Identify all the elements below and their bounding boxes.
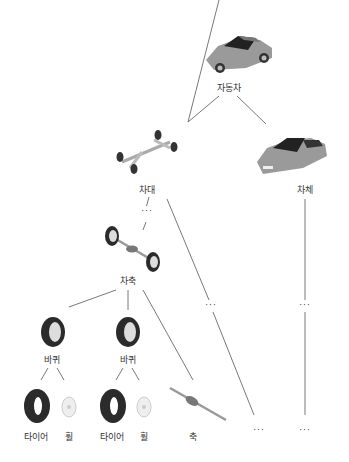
chassis-label: 차대 — [139, 183, 155, 196]
chassis-ellipsis: ··· — [140, 206, 154, 216]
wheel-node-1 — [40, 316, 66, 348]
tire-icon — [23, 388, 51, 424]
car-label: 자동차 — [217, 81, 241, 94]
body-label: 차체 — [297, 183, 313, 196]
wheel-node-2 — [115, 316, 141, 348]
rim-label-2: 휠 — [140, 430, 148, 443]
car-node — [198, 18, 278, 78]
rim-node-1 — [61, 396, 77, 418]
tire-node-1 — [23, 388, 51, 424]
body-branch-ellipsis: ··· — [298, 300, 312, 310]
tire-label-2: 타이어 — [100, 430, 124, 443]
rim-label-1: 휠 — [65, 430, 73, 443]
tire-label-1: 타이어 — [24, 430, 48, 443]
rim-icon — [136, 396, 152, 418]
shaft-node — [168, 384, 228, 424]
body-node — [255, 126, 330, 181]
axle-node — [102, 224, 164, 274]
chassis-icon — [112, 130, 182, 175]
bottom-ellipsis-2: ··· — [298, 425, 312, 435]
car-body-icon — [255, 126, 330, 181]
wheel-label-2: 바퀴 — [120, 353, 136, 366]
axle-icon — [102, 224, 164, 274]
shaft-label: 축 — [189, 430, 197, 443]
chassis-node — [112, 130, 182, 175]
tire-icon — [99, 388, 127, 424]
wheel-label-1: 바퀴 — [44, 353, 60, 366]
rim-icon — [61, 396, 77, 418]
axle-label: 차축 — [120, 274, 136, 287]
chassis-branch-ellipsis: ··· — [204, 300, 218, 310]
tire-node-2 — [99, 388, 127, 424]
car-icon — [198, 18, 278, 78]
wheel-icon — [40, 316, 66, 348]
shaft-icon — [168, 384, 228, 424]
rim-node-2 — [136, 396, 152, 418]
bottom-ellipsis-1: ··· — [252, 425, 266, 435]
wheel-icon — [115, 316, 141, 348]
